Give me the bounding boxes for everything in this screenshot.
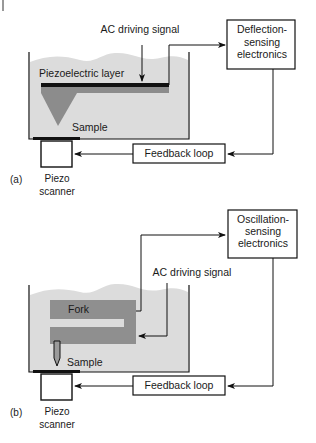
sensing-to-feedback-line-b	[228, 258, 273, 386]
cantilever-a	[41, 87, 169, 93]
oscillation-box-line1: Oscillation-	[237, 213, 289, 225]
oscillation-box-line2: sensing	[245, 225, 281, 237]
deflection-box-line1: Deflection-	[237, 23, 288, 35]
scanner-label-a-line2: scanner	[39, 186, 75, 197]
scanner-label-b-line1: Piezo	[44, 406, 69, 417]
sample-b	[33, 370, 80, 373]
piezo-scanner-a	[41, 141, 72, 167]
ac-signal-label-b: AC driving signal	[153, 266, 232, 278]
feedback-label-b: Feedback loop	[145, 379, 214, 391]
afm-setup-diagram: AC driving signal Piezoelectric layer Sa…	[0, 0, 316, 443]
oscillation-box-line3: electronics	[238, 237, 288, 249]
panel-label-b: (b)	[10, 407, 22, 418]
fork-label: Fork	[68, 303, 90, 315]
scanner-label-a-line1: Piezo	[44, 173, 69, 184]
sensing-to-feedback-line-a	[228, 69, 273, 154]
piezo-scanner-b	[41, 374, 72, 400]
scanner-label-b-line2: scanner	[39, 419, 75, 430]
ac-signal-label-a: AC driving signal	[101, 23, 180, 35]
feedback-label-a: Feedback loop	[145, 147, 214, 159]
sample-label-b: Sample	[67, 356, 103, 368]
deflection-box-line2: sensing	[244, 36, 280, 48]
piezoelectric-layer-a	[41, 83, 169, 87]
deflection-box-line3: electronics	[237, 48, 287, 60]
sample-a	[33, 137, 80, 140]
panel-b: Oscillation- sensing electronics AC driv…	[10, 210, 297, 430]
piezo-layer-label: Piezoelectric layer	[39, 67, 125, 79]
sample-label-a: Sample	[72, 121, 108, 133]
panel-a: AC driving signal Piezoelectric layer Sa…	[10, 20, 295, 197]
panel-label-a: (a)	[10, 174, 22, 185]
